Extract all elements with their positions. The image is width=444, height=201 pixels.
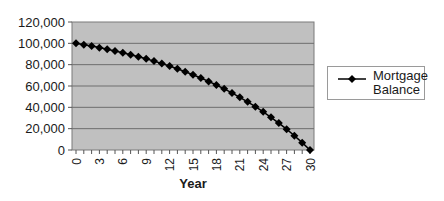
x-tick-label: 30 bbox=[304, 158, 318, 172]
mortgage-balance-chart: 020,00040,00060,00080,000100,000120,000 … bbox=[0, 0, 444, 201]
y-tick-label: 40,000 bbox=[25, 100, 65, 115]
x-axis-title: Year bbox=[179, 176, 206, 191]
x-tick-label: 18 bbox=[210, 158, 224, 172]
legend-label: Mortgage Balance bbox=[373, 69, 428, 97]
x-tick-label: 12 bbox=[163, 158, 177, 172]
y-tick-label: 80,000 bbox=[25, 57, 65, 72]
x-axis: 036912151821242730 bbox=[70, 150, 318, 171]
y-tick-label: 20,000 bbox=[25, 121, 65, 136]
x-tick-label: 6 bbox=[116, 158, 130, 165]
y-axis: 020,00040,00060,00080,000100,000120,000 bbox=[18, 15, 72, 158]
x-tick-label: 27 bbox=[280, 158, 294, 172]
x-tick-label: 15 bbox=[187, 158, 201, 172]
x-tick-label: 21 bbox=[233, 158, 247, 172]
y-tick-label: 60,000 bbox=[25, 79, 65, 94]
legend: Mortgage Balance bbox=[327, 66, 425, 100]
legend-line-diamond-icon bbox=[338, 74, 366, 84]
y-tick-label: 100,000 bbox=[18, 36, 65, 51]
x-tick-label: 3 bbox=[93, 158, 107, 165]
y-tick-label: 0 bbox=[58, 143, 65, 158]
y-tick-label: 120,000 bbox=[18, 15, 65, 30]
x-tick-label: 24 bbox=[257, 158, 271, 172]
x-tick-label: 0 bbox=[70, 158, 84, 165]
x-tick-label: 9 bbox=[140, 158, 154, 165]
